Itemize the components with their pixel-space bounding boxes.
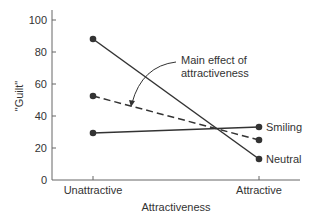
point-neutral-attractive (256, 156, 263, 163)
series-label-smiling: Smiling (266, 121, 302, 133)
smiling-line (93, 127, 259, 133)
y-axis-title: "Guilt" (13, 81, 25, 112)
ytick-label-40: 40 (35, 110, 47, 122)
ytick-label-20: 20 (35, 142, 47, 154)
point-neutral-unattractive (90, 36, 97, 43)
ytick-label-80: 80 (35, 46, 47, 58)
ytick-label-100: 100 (29, 14, 47, 26)
point-mean-unattractive (90, 93, 97, 100)
x-axis-title: Attractiveness (141, 201, 211, 213)
point-smiling-attractive (256, 124, 263, 131)
main-effect-dashed-line (93, 96, 259, 140)
xtick-label-attractive: Attractive (236, 184, 282, 196)
annotation-line1: Main effect of (181, 54, 248, 66)
y-ticks (52, 20, 56, 148)
interaction-chart: 100 80 60 40 20 0 Unattractive Attractiv… (0, 0, 311, 220)
y-tick-labels: 100 80 60 40 20 0 (29, 14, 47, 186)
ytick-label-0: 0 (41, 174, 47, 186)
chart-svg: 100 80 60 40 20 0 Unattractive Attractiv… (0, 0, 311, 220)
annotation-line2: attractiveness (181, 67, 249, 79)
point-mean-attractive (256, 137, 263, 144)
series-label-neutral: Neutral (266, 153, 301, 165)
xtick-label-unattractive: Unattractive (64, 184, 123, 196)
ytick-label-60: 60 (35, 78, 47, 90)
point-smiling-unattractive (90, 130, 97, 137)
